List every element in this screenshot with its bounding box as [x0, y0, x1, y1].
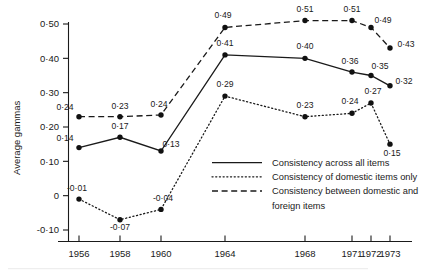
data-point-label: 0·27 [364, 86, 381, 96]
data-point-label: 0·36 [341, 56, 358, 66]
y-axis-ticks [63, 24, 69, 230]
x-tick-label: 1972 [360, 248, 381, 259]
data-point [117, 114, 122, 119]
data-point [222, 25, 227, 30]
data-point [76, 196, 81, 201]
data-point-label: 0·51 [296, 4, 313, 14]
data-point [222, 93, 227, 98]
data-point-label: 0·14 [56, 133, 73, 143]
data-point [302, 18, 307, 23]
data-point [158, 148, 163, 153]
y-tick-label: 0·40 [40, 53, 59, 64]
data-point [387, 141, 392, 146]
y-tick-label: 0·20 [40, 121, 59, 132]
data-point [368, 73, 373, 78]
data-point [158, 207, 163, 212]
y-tick-label: -0·10 [37, 224, 59, 235]
data-point [349, 69, 354, 74]
data-point-label: 0·35 [371, 61, 388, 71]
x-axis-ticks [79, 236, 390, 242]
legend-label: Consistency between domestic and [272, 186, 418, 196]
data-point [387, 83, 392, 88]
data-point-label: 0·40 [296, 41, 313, 51]
data-point-label: 0·23 [111, 101, 128, 111]
y-tick-label: 0·50 [40, 18, 59, 29]
legend-label: foreign items [272, 201, 326, 211]
x-tick-label: 1958 [109, 248, 130, 259]
x-tick-label: 1973 [379, 248, 400, 259]
y-tick-label: 0·30 [40, 87, 59, 98]
data-point [387, 45, 392, 50]
data-point-label: -0·07 [110, 222, 130, 232]
data-point [76, 114, 81, 119]
data-point-label: 0·13 [162, 139, 179, 149]
data-point-label: 0·17 [111, 121, 128, 131]
y-axis-title: Average gammas [11, 100, 22, 175]
data-point [158, 112, 163, 117]
data-point [302, 114, 307, 119]
data-point-label: -0·01 [67, 183, 87, 193]
x-tick-label: 1956 [68, 248, 89, 259]
data-point-label: 0·43 [397, 39, 414, 49]
data-point [368, 100, 373, 105]
x-tick-label: 1971 [341, 248, 362, 259]
data-point-label: 0·29 [216, 79, 233, 89]
data-point-label: 0·23 [296, 100, 313, 110]
data-point [302, 56, 307, 61]
line-chart: 0·500·400·300·200·100-0·10 1956195819601… [0, 0, 425, 274]
x-tick-label: 1960 [150, 248, 171, 259]
x-axis-tick-labels: 19561958196019641968197119721973 [68, 248, 400, 259]
data-point-label: 0·51 [343, 4, 360, 14]
data-point [117, 135, 122, 140]
x-tick-label: 1964 [214, 248, 235, 259]
series-point-labels-group: 0·140·170·130·410·400·360·350·32-0·01-0·… [56, 4, 414, 232]
data-point-label: 0·49 [214, 10, 231, 20]
x-tick-label: 1968 [294, 248, 315, 259]
data-point-label: 0·24 [56, 102, 73, 112]
data-point [349, 111, 354, 116]
data-point-label: 0·24 [150, 99, 167, 109]
legend-label: Consistency across all items [272, 158, 390, 168]
legend: Consistency across all itemsConsistency … [212, 158, 418, 211]
chart-container: 0·500·400·300·200·100-0·10 1956195819601… [0, 0, 425, 274]
data-point-label: -0·04 [153, 193, 173, 203]
page-edge-smudge [8, 268, 368, 269]
y-tick-label: 0 [54, 190, 59, 201]
data-point-label: 0·49 [374, 15, 391, 25]
data-point-label: 0·32 [395, 76, 412, 86]
data-point [368, 25, 373, 30]
data-point [76, 145, 81, 150]
y-tick-label: 0·10 [40, 156, 59, 167]
data-point-label: 0·24 [341, 96, 358, 106]
data-point [222, 52, 227, 57]
legend-label: Consistency of domestic items only [272, 172, 418, 182]
data-point-label: 0·15 [383, 148, 400, 158]
y-axis-tick-labels: 0·500·400·300·200·100-0·10 [37, 18, 59, 235]
data-point [349, 18, 354, 23]
data-point-label: 0·41 [216, 38, 233, 48]
